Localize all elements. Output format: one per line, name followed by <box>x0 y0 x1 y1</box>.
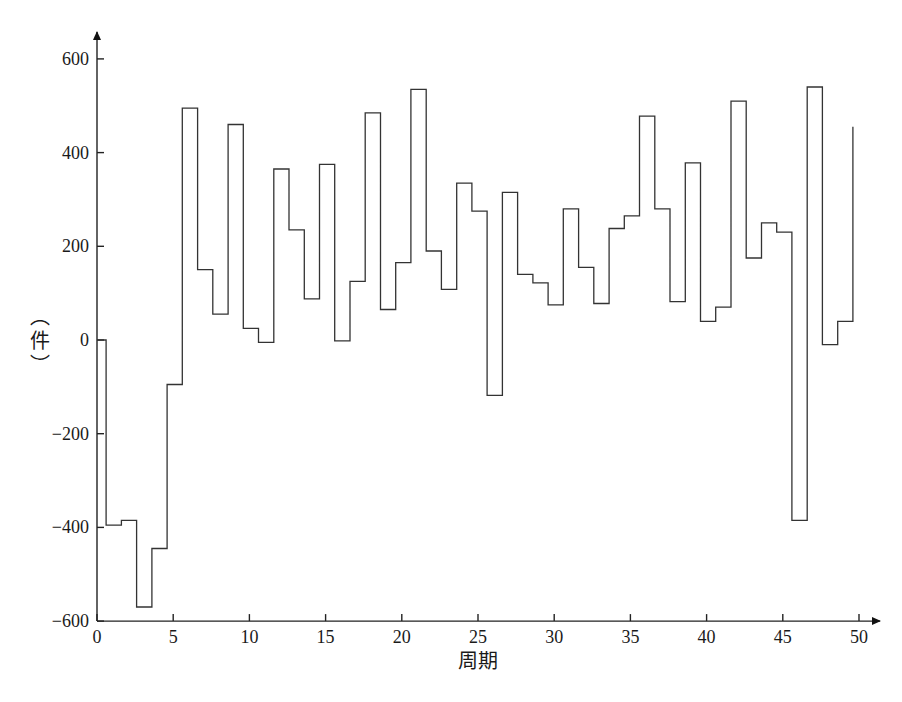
y-tick-label: −600 <box>52 611 89 631</box>
y-tick-label: 0 <box>80 330 89 350</box>
x-tick-label: 15 <box>317 627 335 647</box>
y-tick-label: −200 <box>52 424 89 444</box>
x-tick-label: 30 <box>545 627 563 647</box>
y-tick-label: −400 <box>52 517 89 537</box>
step-line <box>97 87 853 607</box>
x-tick-label: 25 <box>469 627 487 647</box>
series-step-line <box>97 87 853 607</box>
y-axis-title-char: 件 <box>30 329 50 353</box>
x-tick-label: 5 <box>169 627 178 647</box>
y-axis-title-paren-open: ︵ <box>30 305 50 329</box>
y-tick-label: 600 <box>62 49 89 69</box>
x-tick-label: 45 <box>774 627 792 647</box>
y-tick-label: 400 <box>62 143 89 163</box>
y-axis-title-paren-close: ︶ <box>30 353 50 377</box>
chart: −600−400−2000200400600 05101520253035404… <box>0 0 902 702</box>
y-axis-title: ︵ 件 ︶ <box>30 305 50 377</box>
x-tick-label: 10 <box>240 627 258 647</box>
x-tick-label: 20 <box>393 627 411 647</box>
x-tick-label: 0 <box>93 627 102 647</box>
x-tick-label: 50 <box>850 627 868 647</box>
y-axis: −600−400−2000200400600 <box>52 32 104 631</box>
x-tick-label: 35 <box>621 627 639 647</box>
x-tick-label: 40 <box>698 627 716 647</box>
y-tick-label: 200 <box>62 236 89 256</box>
x-axis-title: 周期 <box>458 649 498 673</box>
x-axis: 05101520253035404550 <box>93 614 881 647</box>
